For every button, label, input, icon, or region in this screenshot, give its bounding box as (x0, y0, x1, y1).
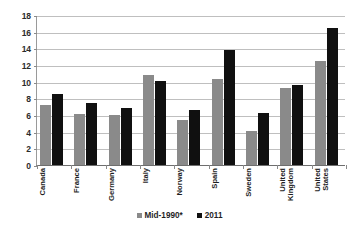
bar (177, 120, 188, 165)
bar (224, 50, 235, 165)
bar-group (106, 16, 140, 165)
bar-group (243, 16, 277, 165)
x-axis-tick-labels: CanadaFranceGermanyItalyNorwaySpainSwede… (36, 168, 345, 208)
bar (52, 94, 63, 165)
y-axis-tick-label: 0 (13, 162, 31, 171)
y-axis-tick-label: 18 (13, 12, 31, 21)
bar-chart: 181614121086420 CanadaFranceGermanyItaly… (0, 0, 359, 228)
x-axis-category-label-line: Italy (142, 168, 150, 183)
bar (40, 105, 51, 165)
x-axis-category-label-line: Norway (176, 168, 184, 195)
bar (292, 85, 303, 165)
x-axis-category-label-line: France (73, 168, 81, 193)
bar-group (174, 16, 208, 165)
x-axis-category-label-line: Spain (211, 168, 219, 189)
y-axis-tick-label: 8 (13, 95, 31, 104)
legend-label: Mid-1990* (145, 212, 183, 220)
x-axis-category-label-line: States (322, 168, 330, 191)
bar (155, 81, 166, 165)
bar (246, 131, 257, 165)
bar (121, 108, 132, 166)
bar (143, 75, 154, 165)
legend-swatch-icon (137, 213, 142, 218)
legend-swatch-icon (197, 213, 202, 218)
plot-area (36, 16, 345, 166)
x-axis-category-label: UnitedStates (314, 168, 354, 208)
bar-group (140, 16, 174, 165)
y-axis-tick-label: 6 (13, 112, 31, 121)
y-axis-tick-label: 14 (13, 45, 31, 54)
bar-group (37, 16, 71, 165)
bar (109, 115, 120, 165)
bar (258, 113, 269, 166)
bar (189, 110, 200, 165)
bar (327, 28, 338, 166)
y-axis-tick-label: 2 (13, 145, 31, 154)
bar (74, 114, 85, 165)
x-axis-category-label-line: Kingdom (287, 168, 295, 201)
bar-group (312, 16, 346, 165)
bar-group (71, 16, 105, 165)
legend-label: 2011 (205, 212, 223, 220)
bar (212, 79, 223, 165)
x-axis-category-label-line: Canada (39, 168, 47, 195)
x-axis-category-label-line: Sweden (245, 168, 253, 197)
x-axis-category-label-line: Germany (108, 168, 116, 201)
y-axis-tick-label: 16 (13, 28, 31, 37)
y-axis-tick-labels: 181614121086420 (13, 0, 31, 228)
bar-series-container (37, 16, 345, 165)
bar (86, 103, 97, 165)
y-axis-tick-label: 4 (13, 128, 31, 137)
legend-item[interactable]: Mid-1990* (137, 212, 183, 220)
legend-item[interactable]: 2011 (197, 212, 223, 220)
bar (280, 88, 291, 165)
bar-group (209, 16, 243, 165)
y-axis-tick-label: 12 (13, 62, 31, 71)
chart-legend: Mid-1990*2011 (0, 208, 359, 224)
bar-group (277, 16, 311, 165)
bar (315, 61, 326, 165)
y-axis-tick-label: 10 (13, 78, 31, 87)
